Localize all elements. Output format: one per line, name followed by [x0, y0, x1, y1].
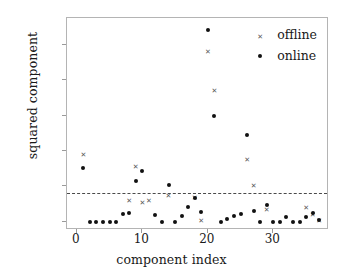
offline-data-point: ✕	[132, 164, 139, 171]
x-tick-label: 0	[56, 233, 96, 245]
offline-data-point: ✕	[244, 157, 251, 164]
scatter-plot-figure: squared component 0.000.050.100.150.200.…	[0, 0, 343, 275]
legend-label-offline: offline	[273, 27, 317, 42]
x-tick-mark	[207, 229, 208, 233]
online-data-point	[219, 220, 223, 224]
offline-data-point: ✕	[309, 212, 316, 219]
x-tick-label: 30	[252, 233, 292, 245]
legend-label-online: online	[273, 48, 316, 63]
offline-data-point: ✕	[303, 205, 310, 212]
online-data-point	[245, 133, 249, 137]
online-data-point	[265, 203, 269, 207]
online-data-point	[232, 214, 236, 218]
online-data-point	[212, 114, 216, 118]
x-tick-mark	[76, 229, 77, 233]
online-data-point	[101, 220, 105, 224]
online-data-point	[134, 179, 138, 183]
online-data-point	[94, 220, 98, 224]
y-axis-label: squared component	[25, 0, 40, 196]
online-data-point	[193, 196, 197, 200]
x-tick-mark	[272, 229, 273, 233]
x-axis-label: component index	[0, 252, 343, 267]
online-data-point	[153, 213, 157, 217]
online-data-point	[121, 212, 125, 216]
online-data-point	[173, 220, 177, 224]
online-data-point	[167, 183, 171, 187]
online-data-point	[81, 166, 85, 170]
x-tick-mark	[141, 229, 142, 233]
legend-item-online: online	[247, 45, 317, 66]
x-tick-label: 20	[187, 233, 227, 245]
threshold-line	[67, 193, 327, 194]
legend-item-offline: ✕ offline	[247, 24, 317, 45]
online-data-point	[252, 209, 256, 213]
online-data-point	[108, 220, 112, 224]
online-data-point	[271, 220, 275, 224]
offline-data-point: ✕	[316, 218, 323, 225]
offline-data-point: ✕	[145, 198, 152, 205]
offline-data-point: ✕	[139, 200, 146, 207]
offline-data-point: ✕	[204, 49, 211, 56]
online-data-point	[284, 215, 288, 219]
online-data-point	[180, 214, 184, 218]
offline-data-point: ✕	[250, 183, 257, 190]
online-data-point	[127, 211, 131, 215]
online-data-point	[186, 205, 190, 209]
offline-data-point: ✕	[191, 195, 198, 202]
online-data-point	[311, 211, 315, 215]
online-data-point	[304, 215, 308, 219]
online-data-point	[199, 210, 203, 214]
legend: ✕ offline online	[245, 22, 321, 68]
offline-data-point: ✕	[126, 198, 133, 205]
online-data-point	[258, 220, 262, 224]
online-data-point	[298, 220, 302, 224]
plot-area: ✕✕✕✕✕✕✕✕✕✕✕✕✕✕✕✕ ✕ offline online	[66, 17, 328, 229]
online-data-point	[225, 217, 229, 221]
offline-data-point: ✕	[198, 218, 205, 225]
online-data-point	[206, 28, 210, 32]
online-marker-icon	[247, 50, 273, 62]
offline-data-point: ✕	[80, 152, 87, 159]
online-data-point	[140, 169, 144, 173]
x-tick-label: 10	[121, 233, 161, 245]
online-data-point	[114, 220, 118, 224]
offline-marker-icon: ✕	[247, 29, 273, 41]
online-data-point	[317, 218, 321, 222]
online-data-point	[291, 220, 295, 224]
online-data-point	[239, 212, 243, 216]
online-data-point	[160, 220, 164, 224]
online-data-point	[88, 220, 92, 224]
offline-data-point: ✕	[263, 207, 270, 214]
offline-data-point: ✕	[211, 88, 218, 95]
online-data-point	[278, 220, 282, 224]
